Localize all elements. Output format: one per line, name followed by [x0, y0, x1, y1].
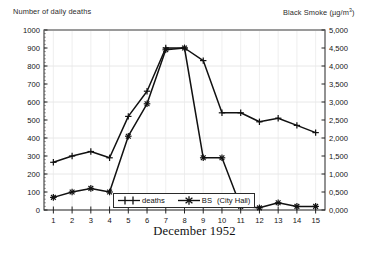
- svg-text:1000: 1000: [23, 26, 40, 35]
- legend-label-deaths: deaths: [142, 196, 165, 205]
- chart-svg: 010020030040050060070080090010000,0000,5…: [0, 0, 389, 260]
- legend-sublabel-bs: (City Hall): [214, 196, 250, 205]
- svg-text:400: 400: [27, 134, 40, 143]
- svg-text:100: 100: [27, 188, 40, 197]
- svg-text:0: 0: [36, 206, 40, 215]
- chart-root: Number of daily deaths Black Smoke (µg/m…: [0, 0, 389, 260]
- asterisk-marker-icon: [178, 195, 200, 206]
- legend-label-bs: BS: [202, 196, 212, 205]
- x-axis-title: December 1952: [0, 224, 389, 239]
- svg-text:2,000: 2,000: [329, 134, 348, 143]
- svg-text:700: 700: [27, 80, 40, 89]
- chart-legend: deaths BS (City Hall): [113, 193, 255, 208]
- svg-text:3,500: 3,500: [329, 80, 348, 89]
- plot-area: 010020030040050060070080090010000,0000,5…: [0, 0, 389, 260]
- svg-text:0,500: 0,500: [329, 188, 348, 197]
- legend-item-bs: BS (City Hall): [178, 195, 250, 206]
- svg-text:2,500: 2,500: [329, 116, 348, 125]
- svg-text:0,000: 0,000: [329, 206, 348, 215]
- plus-marker-icon: [118, 195, 140, 206]
- svg-text:800: 800: [27, 62, 40, 71]
- svg-text:1,000: 1,000: [329, 170, 348, 179]
- svg-text:500: 500: [27, 116, 40, 125]
- svg-text:900: 900: [27, 44, 40, 53]
- svg-text:600: 600: [27, 98, 40, 107]
- svg-text:3,000: 3,000: [329, 98, 348, 107]
- legend-item-deaths: deaths: [118, 195, 165, 206]
- svg-text:5,000: 5,000: [329, 26, 348, 35]
- svg-text:4,000: 4,000: [329, 62, 348, 71]
- svg-text:4,500: 4,500: [329, 44, 348, 53]
- svg-text:200: 200: [27, 170, 40, 179]
- svg-text:300: 300: [27, 152, 40, 161]
- svg-text:1,500: 1,500: [329, 152, 348, 161]
